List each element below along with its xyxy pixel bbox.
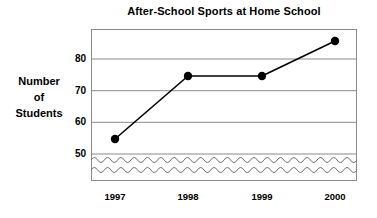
axis-break-wave-lower xyxy=(91,168,357,173)
data-line-number-of-students xyxy=(115,41,335,139)
x-tick-label-1998: 1998 xyxy=(168,192,208,202)
y-tick-label-70: 70 xyxy=(60,86,86,96)
data-point-1999 xyxy=(258,72,266,80)
data-point-1998 xyxy=(184,72,192,80)
x-tick-label-2000: 2000 xyxy=(315,192,355,202)
data-point-1997 xyxy=(111,135,119,143)
x-tick-label-1997: 1997 xyxy=(95,192,135,202)
data-point-2000 xyxy=(331,37,339,45)
y-axis-title: Number of Students xyxy=(6,73,72,121)
chart-title: After-School Sports at Home School xyxy=(91,5,357,17)
chart-page: After-School Sports at Home School Numbe… xyxy=(0,0,377,218)
gridlines xyxy=(91,59,357,154)
x-tick-label-1999: 1999 xyxy=(242,192,282,202)
plot-area xyxy=(91,29,357,181)
axis-break-wavy-lines xyxy=(91,158,357,173)
y-tick-label-50: 50 xyxy=(60,149,86,159)
y-tick-label-60: 60 xyxy=(60,117,86,127)
y-tick-label-80: 80 xyxy=(60,54,86,64)
axis-break-wave-upper xyxy=(91,158,357,163)
